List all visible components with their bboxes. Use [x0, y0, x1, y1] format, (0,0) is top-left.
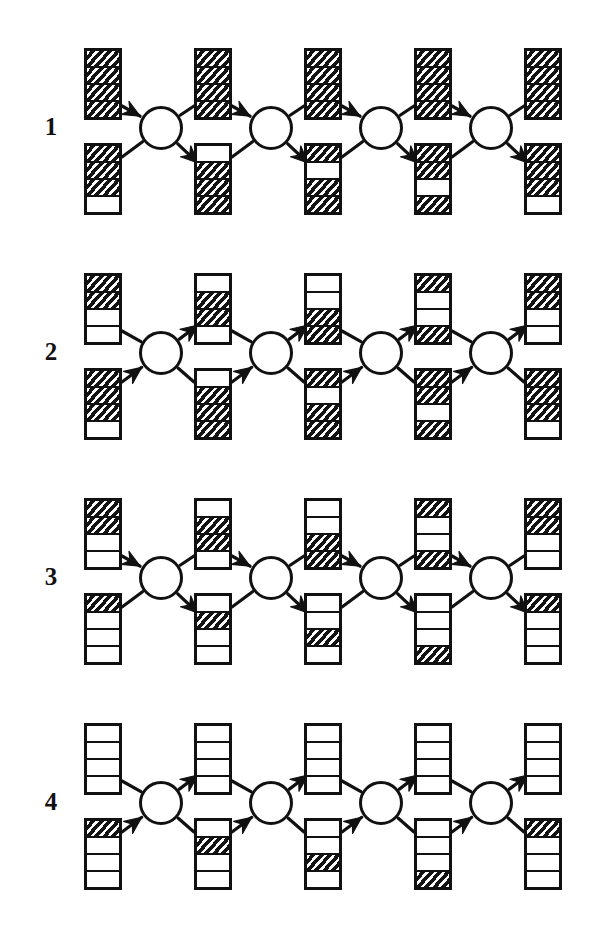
edge-plain-line	[398, 818, 414, 832]
bar-cell-empty	[197, 596, 229, 613]
bar-cell-filled	[197, 422, 229, 437]
bar-cell-filled	[417, 422, 449, 437]
bar-cell-filled	[417, 51, 449, 68]
bar-cell-empty	[87, 310, 119, 327]
bar-cell-empty	[527, 552, 559, 567]
network-node	[249, 781, 293, 825]
bar-cell-empty	[417, 310, 449, 327]
bar-cell-empty	[527, 838, 559, 855]
bar-top	[414, 273, 452, 345]
bar-cell-empty	[417, 821, 449, 838]
bar-cell-filled	[527, 501, 559, 518]
bar-cell-empty	[417, 405, 449, 422]
bar-bottom	[524, 818, 562, 890]
bar-cell-filled	[87, 163, 119, 180]
bar-cell-filled	[307, 371, 339, 388]
bar-cell-filled	[527, 146, 559, 163]
edge-plain-line	[342, 592, 363, 607]
bar-top	[194, 498, 232, 570]
edge-plain-line	[452, 331, 471, 342]
bar-cell-filled	[307, 310, 339, 327]
bar-cell-filled	[87, 85, 119, 102]
bar-cell-empty	[527, 743, 559, 760]
bar-cell-filled	[417, 552, 449, 567]
network-node	[359, 331, 403, 375]
bar-cell-filled	[197, 310, 229, 327]
bar-bottom	[84, 368, 122, 440]
bar-cell-empty	[417, 180, 449, 197]
bar-cell-empty	[197, 327, 229, 342]
bar-cell-filled	[527, 518, 559, 535]
bar-cell-filled	[527, 405, 559, 422]
bar-cell-filled	[307, 327, 339, 342]
edge-plain-line	[122, 331, 141, 342]
bar-cell-empty	[527, 197, 559, 212]
bar-bottom	[304, 368, 342, 440]
edge-plain-line	[122, 142, 143, 157]
bar-cell-filled	[307, 630, 339, 647]
bar-cell-filled	[87, 102, 119, 117]
network-node	[139, 331, 183, 375]
bar-top	[194, 48, 232, 120]
bar-cell-empty	[417, 777, 449, 792]
bar-cell-empty	[87, 743, 119, 760]
edge-plain-line	[342, 142, 363, 157]
bar-bottom	[84, 818, 122, 890]
bar-cell-filled	[527, 51, 559, 68]
bar-cell-empty	[527, 630, 559, 647]
edge-plain-line	[290, 106, 304, 115]
network-node	[359, 781, 403, 825]
bar-bottom	[194, 818, 232, 890]
bar-cell-empty	[197, 726, 229, 743]
bar-cell-empty	[417, 743, 449, 760]
edge-plain-line	[122, 781, 141, 792]
bar-cell-empty	[417, 596, 449, 613]
edge-plain-line	[180, 556, 194, 565]
bar-cell-filled	[87, 821, 119, 838]
bar-top	[524, 273, 562, 345]
bar-cell-filled	[527, 293, 559, 310]
bar-cell-empty	[87, 647, 119, 662]
bar-cell-filled	[417, 102, 449, 117]
bar-cell-filled	[87, 146, 119, 163]
bar-cell-filled	[87, 276, 119, 293]
bar-cell-filled	[527, 102, 559, 117]
diagram-row-3: 3	[0, 478, 607, 678]
bar-cell-filled	[197, 518, 229, 535]
bar-cell-empty	[527, 647, 559, 662]
network-diagram: 1234	[0, 0, 607, 925]
bar-cell-empty	[197, 743, 229, 760]
edge-in-head	[124, 817, 142, 833]
bar-bottom	[524, 143, 562, 215]
bar-bottom	[414, 143, 452, 215]
edge-in-head	[454, 367, 472, 383]
bar-top	[304, 273, 342, 345]
bar-cell-empty	[197, 855, 229, 872]
bar-cell-empty	[307, 613, 339, 630]
bar-cell-empty	[527, 872, 559, 887]
network-node	[359, 106, 403, 150]
edge-in-head	[234, 367, 252, 383]
bar-top	[524, 498, 562, 570]
bar-cell-empty	[527, 535, 559, 552]
bar-cell-empty	[307, 276, 339, 293]
bar-cell-empty	[87, 422, 119, 437]
bar-cell-empty	[197, 821, 229, 838]
network-node	[469, 106, 513, 150]
bar-cell-filled	[87, 180, 119, 197]
network-node	[469, 556, 513, 600]
bar-cell-filled	[527, 163, 559, 180]
bar-cell-filled	[307, 552, 339, 567]
bar-cell-empty	[417, 613, 449, 630]
bar-cell-filled	[197, 163, 229, 180]
bar-cell-empty	[87, 777, 119, 792]
edge-plain-line	[178, 818, 194, 832]
bar-cell-empty	[87, 535, 119, 552]
edge-in-head	[344, 817, 362, 833]
edge-in-head	[124, 367, 142, 383]
bar-cell-empty	[197, 276, 229, 293]
edge-plain-line	[400, 556, 414, 565]
bar-cell-filled	[307, 405, 339, 422]
edge-in-head	[454, 817, 472, 833]
bar-cell-empty	[87, 872, 119, 887]
